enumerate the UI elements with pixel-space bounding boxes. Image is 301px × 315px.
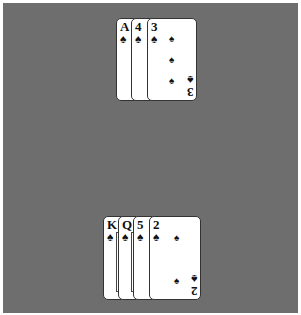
spade-icon: ♠	[151, 33, 157, 45]
spade-pip-icon: ♠	[169, 76, 174, 86]
card-two-of-spades[interactable]: 2 ♠ ♠ ♠ ♠ 2	[149, 216, 201, 300]
spade-icon: ♠	[120, 33, 126, 45]
card-table: A ♠ 4 ♠ 3 ♠ ♠ ♠ ♠ ♠ 3 K ♠ Q ♠	[3, 3, 298, 313]
spade-icon: ♠	[153, 231, 159, 243]
spade-icon: ♠	[122, 231, 128, 243]
card-three-of-spades[interactable]: 3 ♠ ♠ ♠ ♠ ♠ 3	[147, 18, 197, 101]
spade-pip-icon: ♠	[169, 34, 174, 44]
spade-pip-icon: ♠	[174, 276, 179, 286]
spade-pip-icon: ♠	[174, 233, 179, 243]
spade-icon: ♠	[107, 231, 113, 243]
card-rank: 2	[191, 285, 198, 298]
spade-icon: ♠	[135, 33, 141, 45]
spade-pip-icon: ♠	[169, 55, 174, 65]
card-rank: 3	[187, 86, 194, 99]
spade-icon: ♠	[137, 231, 143, 243]
